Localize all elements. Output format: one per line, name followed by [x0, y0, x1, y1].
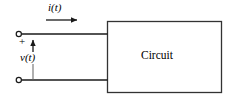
- voltage-label: v(t): [20, 52, 35, 63]
- diagram-canvas: [0, 0, 231, 99]
- bottom-terminal-node-icon: [16, 77, 21, 82]
- current-label: i(t): [48, 2, 61, 13]
- polarity-plus-label: +: [19, 36, 25, 47]
- circuit-block-label: Circuit: [141, 50, 173, 62]
- circuit-diagram-figure: i(t) + v(t) Circuit: [0, 0, 231, 99]
